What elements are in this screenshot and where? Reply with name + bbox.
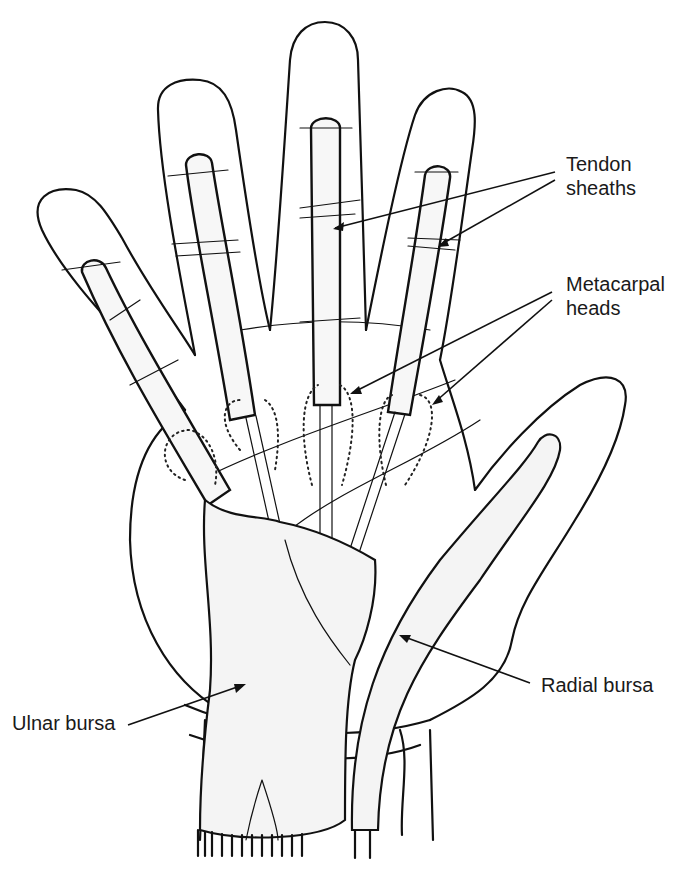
label-metacarpal-heads-line2: heads xyxy=(566,296,665,320)
tendon-sheaths xyxy=(62,118,460,556)
label-ulnar-bursa: Ulnar bursa xyxy=(12,711,115,735)
label-tendon-sheaths-line2: sheaths xyxy=(566,176,636,200)
hand-anatomy-illustration xyxy=(0,0,693,880)
radial-bursa xyxy=(352,434,560,858)
label-metacarpal-heads-line1: Metacarpal xyxy=(566,272,665,296)
label-tendon-sheaths: Tendon sheaths xyxy=(566,152,636,200)
label-tendon-sheaths-line1: Tendon xyxy=(566,152,636,176)
label-metacarpal-heads: Metacarpal heads xyxy=(566,272,665,320)
label-radial-bursa: Radial bursa xyxy=(541,673,653,697)
ulnar-bursa xyxy=(198,500,375,856)
